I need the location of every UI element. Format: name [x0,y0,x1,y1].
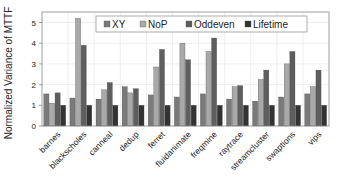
bar-nop-ferret [154,67,159,126]
bar-oddeven-ferret [159,49,164,126]
legend-label-lifetime: Lifetime [253,19,288,30]
legend-label-oddeven: Oddeven [194,19,235,30]
bar-lifetime-fluidanimate [191,105,196,126]
bar-xy-blackscholes [70,98,75,126]
bar-lifetime-raytrace [243,105,248,126]
bar-lifetime-streamcluster [269,105,274,126]
x-axis-labels: barnesblackscholescannealdedupferretflui… [37,129,323,173]
bar-lifetime-swaptions [295,105,300,126]
bar-lifetime-ferret [165,105,170,126]
bar-lifetime-barnes [61,105,66,126]
legend-swatch-lifetime [245,21,251,27]
bar-oddeven-raytrace [238,86,243,126]
x-tick-label: dedup [117,129,141,153]
bar-nop-raytrace [232,87,237,126]
legend: XYNoPOddevenLifetime [96,16,307,32]
bar-nop-canneal [102,90,107,126]
y-tick-label: 0 [32,122,37,131]
bar-oddeven-streamcluster [264,70,269,126]
legend-swatch-nop [140,21,146,27]
bar-xy-canneal [96,99,101,126]
bar-oddeven-canneal [107,83,112,126]
bar-nop-fluidanimate [180,43,185,126]
bar-nop-swaptions [284,64,289,126]
bar-xy-ferret [148,95,153,126]
bar-nop-blackscholes [76,18,81,126]
bar-oddeven-dedup [133,89,138,126]
bar-xy-dedup [122,87,127,126]
bar-xy-swaptions [279,97,284,126]
bar-xy-vips [305,94,310,126]
bar-oddeven-vips [316,70,321,126]
bar-xy-streamcluster [253,101,258,126]
bar-lifetime-dedup [139,105,144,126]
bar-oddeven-barnes [55,93,60,126]
bar-xy-raytrace [226,99,231,126]
x-tick-label: freqmine [189,129,220,160]
bar-oddeven-fluidanimate [186,60,191,126]
bar-lifetime-blackscholes [87,105,92,126]
y-tick-label: 3 [32,60,37,69]
y-axis-label: Normalized Variance of MTTF [3,7,14,140]
y-tick-label: 5 [32,19,37,28]
legend-swatch-oddeven [186,21,192,27]
legend-swatch-xy [104,21,110,27]
bar-lifetime-vips [322,105,327,126]
bars [44,18,327,126]
bar-lifetime-freqmine [217,105,222,126]
y-axis-ticks: 012345 [32,19,42,132]
bar-oddeven-freqmine [212,38,217,126]
bar-nop-vips [310,87,315,126]
bar-nop-freqmine [206,51,211,126]
bar-chart: 012345 barnesblackscholescannealdedupfer… [0,0,344,185]
bar-oddeven-swaptions [290,51,295,126]
bar-xy-barnes [44,94,49,126]
bar-oddeven-blackscholes [81,45,86,126]
x-tick-label: ferret [146,129,168,151]
bar-nop-streamcluster [258,79,263,126]
bar-nop-dedup [128,93,133,126]
bar-nop-barnes [49,103,54,126]
bar-xy-freqmine [200,94,205,126]
bar-lifetime-canneal [113,105,118,126]
y-tick-label: 2 [32,81,37,90]
x-tick-label: canneal [87,129,115,157]
y-tick-label: 1 [32,101,37,110]
legend-label-nop: NoP [148,19,168,30]
x-tick-label: vips [306,129,324,147]
bar-xy-fluidanimate [174,97,179,126]
legend-label-xy: XY [112,19,126,30]
y-tick-label: 4 [32,39,37,48]
